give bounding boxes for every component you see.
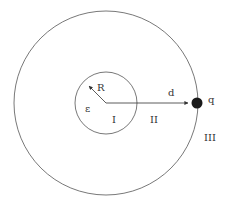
radius-label: R bbox=[97, 82, 105, 93]
point-charge bbox=[192, 98, 203, 109]
region-3-label: III bbox=[204, 132, 216, 143]
diagram-canvas: R ε I d II q III bbox=[0, 0, 229, 205]
region-1-label: I bbox=[112, 114, 116, 125]
charge-label: q bbox=[208, 94, 215, 105]
distance-label: d bbox=[168, 87, 175, 98]
region-2-label: II bbox=[150, 114, 158, 125]
permittivity-label: ε bbox=[85, 103, 90, 114]
